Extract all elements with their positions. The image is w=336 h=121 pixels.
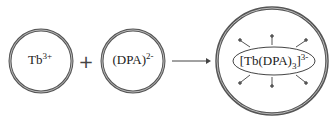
tb-ion-charge: 3+ [42,51,52,61]
reaction-arrow-icon [172,58,211,64]
complex-prefix: [Tb(DPA) [240,53,292,68]
tb-ion-label: Tb3+ [28,52,52,68]
dpa-ligand-base: (DPA) [113,52,146,67]
plus-operator: + [78,51,93,72]
dpa-ligand-label: (DPA)2- [113,52,154,68]
tb-ion-base: Tb [28,52,42,67]
complex-charge: 3- [301,52,309,62]
dpa-ligand-charge: 2- [146,51,154,61]
complex-label: [Tb(DPA)3]3- [240,53,309,69]
